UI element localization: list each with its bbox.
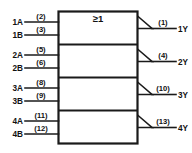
output-pin-4y: (13) — [156, 117, 170, 126]
input-pin-4a: (11) — [34, 111, 48, 120]
input-pin-2b: (6) — [36, 58, 46, 67]
input-label-3a: 3A — [13, 84, 24, 93]
input-pin-3a: (8) — [36, 78, 46, 87]
input-pin-1b: (3) — [36, 25, 46, 34]
output-label-3y: 3Y — [178, 91, 189, 100]
input-pin-2a: (5) — [36, 45, 46, 54]
input-label-1a: 1A — [13, 18, 24, 27]
input-label-4a: 4A — [13, 117, 24, 126]
output-triangle-3 — [138, 82, 153, 95]
output-label-1y: 1Y — [178, 25, 189, 34]
input-label-4b: 4B — [13, 130, 24, 139]
input-label-2a: 2A — [13, 51, 24, 60]
input-pin-1a: (2) — [36, 12, 46, 21]
output-triangle-2 — [138, 49, 153, 62]
input-label-1b: 1B — [13, 31, 24, 40]
output-pin-2y: (4) — [158, 51, 168, 60]
input-label-2b: 2B — [13, 64, 24, 73]
output-label-4y: 4Y — [178, 124, 189, 133]
output-pin-1y: (1) — [158, 18, 168, 27]
output-pin-3y: (10) — [156, 84, 170, 93]
input-label-3b: 3B — [13, 97, 24, 106]
input-pin-4b: (12) — [34, 124, 48, 133]
input-pin-3b: (9) — [36, 91, 46, 100]
output-triangle-4 — [138, 115, 153, 128]
output-label-2y: 2Y — [178, 58, 189, 67]
gate-qualifying-symbol: ≥1 — [93, 13, 104, 24]
logic-diagram-canvas: ≥1 1A 1B 2A 2B 3A 3B 4A 4B (2) (3) (5) (… — [0, 0, 192, 153]
output-triangle-1 — [138, 16, 153, 29]
